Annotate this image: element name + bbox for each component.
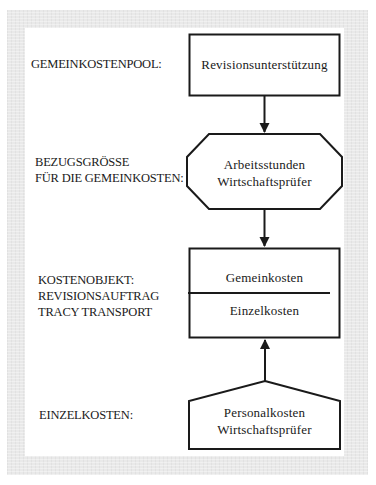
- label-object-line3: TRACY TRANSPORT: [38, 304, 152, 320]
- object-box-top-text: Gemeinkosten: [189, 269, 340, 286]
- base-octagon-line2: Wirtschaftsprüfer: [187, 173, 342, 190]
- object-box-bottom-text: Einzelkosten: [189, 302, 340, 319]
- direct-pentagon-line2: Wirtschaftsprüfer: [189, 421, 340, 438]
- direct-pentagon-line1: Personalkosten: [189, 404, 340, 421]
- label-base-line2: FÜR DIE GEMEINKOSTEN:: [35, 170, 184, 186]
- label-object-line1: KOSTENOBJEKT:: [38, 272, 134, 288]
- base-octagon-line1: Arbeitsstunden: [187, 156, 342, 173]
- pool-box-text: Revisionsunterstützung: [189, 56, 340, 73]
- label-base-line1: BEZUGSGRÖSSE: [35, 154, 129, 170]
- label-object-line2: REVISIONSAUFTRAG: [38, 288, 159, 304]
- label-direct: EINZELKOSTEN:: [39, 407, 133, 423]
- label-pool: GEMEINKOSTENPOOL:: [31, 56, 162, 72]
